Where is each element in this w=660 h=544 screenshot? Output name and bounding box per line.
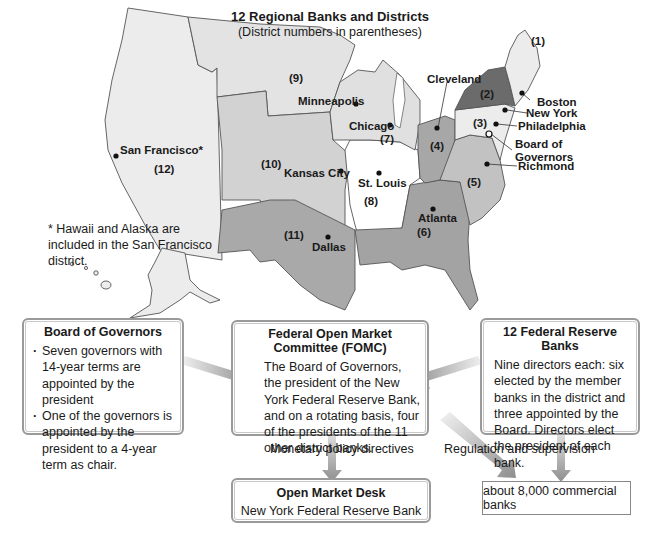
district-8-number: (8): [364, 195, 378, 207]
atlanta-dot: [430, 206, 435, 211]
district-10-number: (10): [261, 158, 281, 170]
dallas-label: Dallas: [312, 241, 346, 253]
commercial-banks-text: about 8,000 commercial banks: [483, 484, 630, 512]
newyork-dot: [502, 107, 507, 112]
kansascity-label: Kansas City: [284, 167, 350, 179]
district-11-number: (11): [284, 229, 304, 241]
district-3-number: (3): [473, 117, 487, 129]
map-subtitle: (District numbers in parentheses): [0, 25, 660, 39]
district-2-number: (2): [480, 88, 494, 100]
federal-reserve-banks-box: 12 Federal Reserve Banks Nine directors …: [480, 318, 640, 435]
alaska-hawaii-footnote: * Hawaii and Alaska are included in the …: [48, 221, 218, 269]
district-9-number: (9): [289, 72, 303, 84]
map-title: 12 Regional Banks and Districts: [0, 9, 660, 24]
board-of-governors-label: Board of Governors: [515, 138, 575, 164]
minneapolis-label: Minneapolis: [298, 95, 364, 107]
board-bullet: One of the governors is appointed by the…: [32, 408, 174, 473]
reserve-banks-box-title: 12 Federal Reserve Banks: [490, 325, 630, 353]
dallas-dot: [325, 234, 330, 239]
fomc-box: Federal Open Market Committee (FOMC) The…: [231, 320, 429, 436]
regulation-label: Regulation and supervision: [444, 442, 595, 456]
commercial-banks-box: about 8,000 commercial banks: [482, 481, 631, 515]
board-box-bullets: Seven governors with 14-year terms are a…: [28, 343, 178, 473]
board-bullet: Seven governors with 14-year terms are a…: [32, 343, 174, 408]
atlanta-label: Atlanta: [418, 212, 457, 224]
newyork-label: New York: [526, 107, 577, 119]
district-4-number: (4): [430, 140, 444, 152]
district-1-number: (1): [531, 35, 545, 47]
sanfrancisco-label: San Francisco*: [120, 144, 203, 156]
stlouis-dot: [376, 170, 381, 175]
open-market-desk-box: Open Market Desk New York Federal Reserv…: [231, 478, 431, 523]
desk-box-text: New York Federal Reserve Bank: [237, 503, 425, 519]
boston-dot: [519, 90, 524, 95]
board-of-governors-marker: [486, 131, 492, 137]
cleveland-dot: [434, 125, 439, 130]
district-7-number: (7): [380, 133, 394, 145]
board-of-governors-box: Board of Governors Seven governors with …: [22, 318, 184, 435]
richmond-dot: [484, 161, 489, 166]
sanfrancisco-dot: [113, 153, 118, 158]
cleveland-label: Cleveland: [427, 73, 481, 85]
philadelphia-label: Philadelphia: [518, 120, 586, 132]
chicago-label: Chicago: [349, 120, 394, 132]
philadelphia-dot: [493, 121, 498, 126]
stlouis-label: St. Louis: [358, 177, 407, 189]
monetary-policy-label: Monetary policy directives: [270, 442, 414, 456]
district-12-number: (12): [154, 163, 174, 175]
desk-box-title: Open Market Desk: [237, 486, 425, 500]
district-5-number: (5): [467, 176, 481, 188]
district-6-number: (6): [417, 226, 431, 238]
fomc-box-title: Federal Open Market Committee (FOMC): [239, 327, 421, 355]
board-box-title: Board of Governors: [28, 325, 178, 339]
